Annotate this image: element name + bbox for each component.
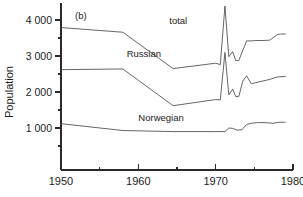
x-tick-label: 1980 (281, 175, 303, 187)
series-label-norwegian: Norwegian (138, 112, 183, 123)
x-tick-label: 1960 (126, 175, 150, 187)
y-tick-label: 3 000 (26, 50, 52, 62)
x-tick-label: 1950 (49, 175, 73, 187)
y-axis-tick-labels: 1 0002 0003 0004 000 (26, 14, 52, 134)
series-inline-labels: totalRussianNorwegian (127, 15, 188, 124)
chart-canvas: 1 0002 0003 0004 000 1950196019701980 Po… (0, 0, 303, 197)
x-axis-group: 1950196019701980 (49, 164, 303, 188)
y-axis-group: 1 0002 0003 0004 000 (26, 3, 61, 170)
population-line-chart-figure: 1 0002 0003 0004 000 1950196019701980 Po… (0, 0, 303, 197)
y-tick-label: 4 000 (26, 14, 52, 26)
y-tick-label: 1 000 (26, 122, 52, 134)
series-line-russian (61, 52, 285, 105)
series-line-norwegian (61, 122, 285, 131)
y-axis-title: Population (3, 66, 15, 118)
y-tick-label: 2 000 (26, 86, 52, 98)
panel-label: (b) (75, 10, 87, 21)
x-tick-label: 1970 (203, 175, 227, 187)
series-label-total: total (169, 15, 187, 26)
x-axis-tick-labels: 1950196019701980 (49, 175, 303, 187)
series-label-russian: Russian (127, 48, 161, 59)
